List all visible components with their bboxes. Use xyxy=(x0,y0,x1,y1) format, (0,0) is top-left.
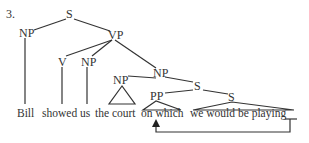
word-on-which: on which xyxy=(141,107,184,119)
node-np-object: NP xyxy=(81,55,97,69)
word-bill: Bill xyxy=(17,107,34,119)
word-clause: we would be playing xyxy=(190,107,286,120)
node-np-head: NP xyxy=(113,73,129,87)
node-pp: PP xyxy=(150,89,164,103)
node-s-root: S xyxy=(66,7,73,21)
node-vp: VP xyxy=(108,28,124,42)
word-us: us xyxy=(80,107,91,119)
node-s-inner: S xyxy=(228,90,235,104)
word-showed: showed xyxy=(42,107,77,119)
node-np-subject: NP xyxy=(19,26,35,40)
word-the-court: the court xyxy=(95,107,136,119)
node-np-complex: NP xyxy=(153,66,169,80)
example-number: 3. xyxy=(6,7,15,21)
node-s-relative: S xyxy=(194,79,201,93)
syntax-tree-diagram: 3. S NP VP V NP NP NP S PP S Bill showed… xyxy=(0,0,309,143)
movement-arrow xyxy=(152,119,297,132)
arrowhead-icon xyxy=(152,119,160,127)
node-v: V xyxy=(58,55,67,69)
